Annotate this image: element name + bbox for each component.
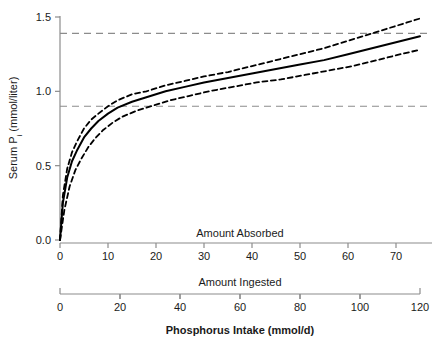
y-axis-tick-label: 1.5 bbox=[36, 11, 51, 23]
ingested-axis-tick-label: 0 bbox=[57, 301, 63, 313]
absorbed-axis-tick-label: 0 bbox=[57, 250, 63, 262]
y-axis-tick-label: 1.0 bbox=[36, 85, 51, 97]
phosphorus-intake-chart: 0.00.51.01.5Serum Pi (mmol/liter)0102030… bbox=[0, 0, 438, 349]
absorbed-axis-tick-label: 50 bbox=[294, 250, 306, 262]
y-axis-title: Serum Pi (mmol/liter) bbox=[7, 77, 24, 180]
ingested-axis-tick-label: 100 bbox=[351, 301, 369, 313]
absorbed-axis-tick-label: 40 bbox=[246, 250, 258, 262]
y-axis-tick-label: 0.5 bbox=[36, 160, 51, 172]
svg-text:Serum Pi (mmol/liter): Serum Pi (mmol/liter) bbox=[7, 77, 24, 180]
absorbed-axis-tick-label: 20 bbox=[150, 250, 162, 262]
ingested-axis-tick-label: 120 bbox=[411, 301, 429, 313]
absorbed-axis-tick-label: 70 bbox=[390, 250, 402, 262]
ingested-axis-tick-label: 80 bbox=[294, 301, 306, 313]
absorbed-axis-tick-label: 60 bbox=[342, 250, 354, 262]
series-solid-line bbox=[60, 36, 420, 240]
x-axis-title: Phosphorus Intake (mmol/d) bbox=[166, 324, 315, 336]
ingested-axis-tick-label: 60 bbox=[234, 301, 246, 313]
absorbed-axis-tick-label: 10 bbox=[102, 250, 114, 262]
y-axis-tick-label: 0.0 bbox=[36, 234, 51, 246]
absorbed-axis-title: Amount Absorbed bbox=[196, 227, 283, 239]
ingested-axis-tick-label: 20 bbox=[114, 301, 126, 313]
ingested-axis-title: Amount Ingested bbox=[198, 276, 281, 288]
series-dashed-line bbox=[60, 18, 420, 240]
series-dashed-line bbox=[60, 50, 420, 240]
chart-svg: 0.00.51.01.5Serum Pi (mmol/liter)0102030… bbox=[0, 0, 438, 349]
absorbed-axis-tick-label: 30 bbox=[198, 250, 210, 262]
ingested-axis-tick-label: 40 bbox=[174, 301, 186, 313]
